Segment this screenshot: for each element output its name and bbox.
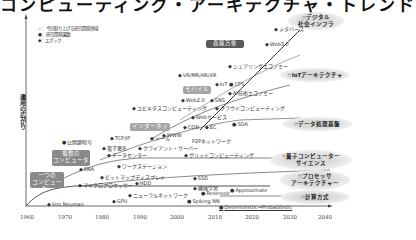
- epoch-everything: 森羅万象: [206, 40, 244, 48]
- item-data-center: ◆データセンター: [107, 152, 147, 158]
- item-grid-computing: ◆グリッドコンピューティング: [184, 152, 254, 158]
- epoch-single-computer: 一つの コンピューター: [30, 172, 64, 188]
- focus-data-processing: ☆データ処理基盤: [282, 117, 352, 131]
- x-tick: 1960: [20, 214, 34, 220]
- item-microprocessor: ◆マイクロプロセッサー: [78, 182, 133, 188]
- item-spiking-nn: ●Spiking NN: [187, 198, 220, 204]
- item-hdd: ◆HDD: [135, 180, 151, 186]
- item-p2p-network: P2Pネットワーク: [192, 138, 231, 144]
- item-neural-network: ◆ニューラルネットワーク: [128, 192, 188, 198]
- focus-iot-architecture: ☆IoTアーキテクチャ: [280, 68, 350, 82]
- item-soa: ●SOA: [232, 121, 248, 127]
- item-web3: ◆Web3.0: [265, 41, 289, 47]
- item-mail: ◆メール: [150, 135, 170, 141]
- item-sna: ◆SNA: [79, 166, 94, 172]
- item-ec: ◆EC: [205, 124, 217, 130]
- x-tick: 2030: [283, 214, 297, 220]
- item-ai-economy: ◆AI技術エコノミー: [228, 90, 273, 96]
- x-tick: 2010: [208, 214, 222, 220]
- x-tick: 2040: [318, 214, 332, 220]
- epoch-mobile: モバイル: [183, 86, 211, 94]
- item-reservoir: ●Reservoir: [201, 190, 230, 196]
- item-deterministic-probabilistic: ●Deterministic⇒Probabilistic: [219, 204, 292, 210]
- item-digital-signature: ◆電子署名: [102, 145, 127, 151]
- item-workstation: ◆ワークステーション: [117, 163, 167, 169]
- epoch-multiple-computers: 複数の コンピューター: [52, 150, 90, 166]
- legend-diamond: ◆：エポック: [38, 38, 98, 44]
- focus-computation-method: ☆計算方式: [280, 190, 350, 204]
- epoch-internet: インターネット: [130, 123, 170, 131]
- item-ssd: ◆SSD: [193, 175, 208, 181]
- x-tick: 1990: [133, 214, 147, 220]
- item-web2: ◆Web2.0: [181, 97, 205, 103]
- item-cps: ●CPS: [229, 81, 244, 87]
- x-tick: 2000: [170, 214, 184, 220]
- focus-processor-architecture: ☆プロセッサ アーキテクチャー: [280, 170, 350, 190]
- y-axis-label: 適用の広がり: [18, 94, 27, 130]
- item-client-server: ◆クライアント・サーバー: [138, 145, 198, 151]
- focus-quantum-computer-science: ☆量子コンピューター サイエンス: [270, 150, 352, 170]
- item-gpu: ◆GPU: [112, 198, 127, 204]
- item-bitmap-display: ◆ビットマップディスプレイ: [100, 174, 165, 180]
- item-von-neuman: ◆Von Neuman: [47, 201, 84, 207]
- item-metaverse: ◆メタバース: [274, 26, 304, 32]
- item-approximate: ●Approximate: [230, 187, 267, 193]
- item-ubiquitous-computing: ◆ユビキタスコンピューティング: [132, 105, 207, 111]
- item-iot: ◆IoT: [215, 81, 227, 87]
- item-public-key-crypto: ●公開鍵暗号: [62, 139, 92, 145]
- legend: ☆：今回取り上げる研究開発領域 ●：研究開発課題 ◆：エポック: [38, 26, 98, 44]
- item-web-services: ◆Webサービス: [191, 114, 227, 120]
- item-tcp-ip: ◆TCP/IP: [110, 135, 130, 141]
- item-sharing-economy: ◆シェアリングエコノミー: [228, 63, 288, 69]
- x-tick: 2020: [245, 214, 259, 220]
- x-tick: 1970: [58, 214, 72, 220]
- item-sns: ◆SNS: [210, 97, 225, 103]
- item-vr-mr-ar-xr: ◆VR/MR/AR/XR: [178, 72, 216, 78]
- x-tick: 1980: [95, 214, 109, 220]
- item-cloud-computing: ◆クラウドコンピューティング: [215, 105, 285, 111]
- item-cdn: ◆CDN: [183, 124, 199, 130]
